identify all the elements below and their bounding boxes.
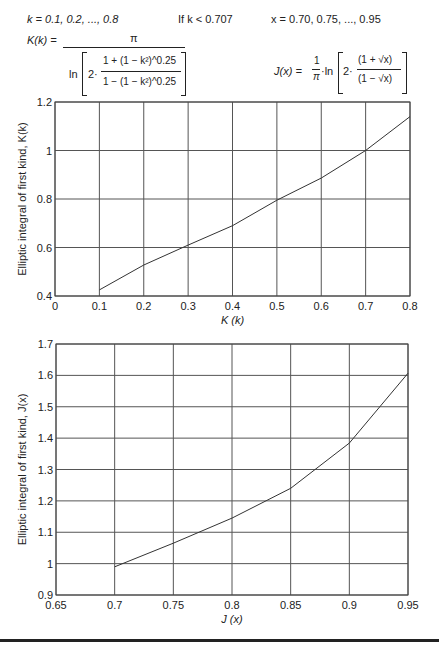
x-tick-label: 0.85: [280, 599, 301, 611]
x-tick-label: 0.6: [314, 300, 329, 312]
bottom-rule: [0, 639, 439, 642]
j-formula-coef-num: 1: [314, 55, 320, 66]
k-formula-inner-den: 1 − (1 − k²)^0.25: [103, 76, 176, 87]
k-formula-inner-num: 1 + (1 − k²)^0.25: [103, 55, 176, 66]
data-line: [99, 117, 410, 290]
x-tick-label: 0.8: [224, 599, 239, 611]
y-tick-label: 0.6: [37, 242, 52, 254]
x-axis-label: K (k): [221, 314, 245, 326]
chart-k: 00.10.20.30.40.50.60.70.80.40.60.811.2K …: [0, 90, 439, 330]
y-tick-label: 1.4: [38, 432, 53, 444]
j-formula-lhs: J(x) =: [274, 65, 302, 77]
x-tick-label: 0.1: [92, 300, 107, 312]
x-axis-label: J (x): [220, 613, 243, 625]
k-formula-inner-bar: [101, 71, 181, 72]
j-formula-right-bracket: [402, 52, 407, 94]
k-formula-fraction-bar: [63, 47, 185, 48]
x-tick-label: 0.95: [397, 599, 418, 611]
y-tick-label: 1.3: [38, 464, 53, 476]
j-formula: J(x) = 1 π ·ln 2· (1 + √x) (1 − √x): [274, 50, 439, 94]
k-formula-lhs: K(k) =: [27, 34, 57, 46]
x-tick-label: 0.5: [269, 300, 284, 312]
x-tick-label: 0.2: [136, 300, 151, 312]
x-tick-label: 0: [52, 300, 58, 312]
j-formula-inner-den: (1 − √x): [358, 73, 392, 84]
x-tick-label: 0.4: [225, 300, 240, 312]
k-formula-numerator: π: [130, 32, 138, 44]
y-axis-label: Elliptic integral of first kind, J(x): [16, 394, 28, 546]
k-range-text: k = 0.1, 0.2, ..., 0.8: [27, 13, 118, 25]
y-tick-label: 1.1: [38, 526, 53, 538]
x-tick-label: 0.7: [107, 599, 122, 611]
y-tick-label: 0.8: [37, 193, 52, 205]
k-formula-ln: ln: [69, 68, 78, 80]
y-tick-label: 1.5: [38, 401, 53, 413]
x-tick-label: 0.7: [358, 300, 373, 312]
j-formula-inner-num: (1 + √x): [358, 54, 392, 65]
j-formula-factor: 2·: [343, 65, 353, 77]
k-formula-factor: 2·: [88, 68, 98, 80]
x-range-text: x = 0.70, 0.75, ..., 0.95: [271, 13, 381, 25]
y-axis-label: Elliptic integral of first kind, K(k): [16, 122, 28, 275]
x-tick-label: 0.3: [180, 300, 195, 312]
grid: [56, 344, 408, 595]
y-tick-label: 1: [46, 145, 52, 157]
j-formula-ln: ·ln: [321, 65, 333, 77]
x-tick-label: 0.75: [163, 599, 184, 611]
y-tick-label: 0.4: [37, 290, 52, 302]
grid: [55, 102, 410, 296]
y-tick-label: 1.2: [37, 96, 52, 108]
j-formula-coef-den: π: [313, 71, 320, 82]
chart-j: 0.650.70.750.80.850.90.950.911.11.21.31.…: [0, 330, 439, 635]
y-tick-label: 1.6: [38, 369, 53, 381]
j-formula-coef-bar: [312, 69, 320, 70]
y-tick-label: 1.2: [38, 495, 53, 507]
condition-text: If k < 0.707: [178, 13, 233, 25]
k-formula: K(k) = π ln 2· 1 + (1 − k²)^0.25 1 − (1 …: [27, 30, 207, 96]
y-tick-label: 1.7: [38, 338, 53, 350]
y-tick-label: 1: [47, 558, 53, 570]
j-formula-inner-bar: [357, 69, 401, 70]
y-tick-label: 0.9: [38, 589, 53, 601]
x-tick-label: 0.8: [402, 300, 417, 312]
x-tick-label: 0.9: [342, 599, 357, 611]
